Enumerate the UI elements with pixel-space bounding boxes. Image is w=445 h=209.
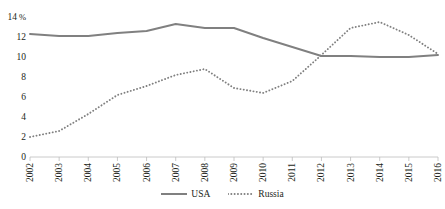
x-axis-tick-label: 2013 <box>346 163 356 182</box>
legend-item-usa[interactable]: USA <box>161 189 210 199</box>
axis-group <box>30 157 438 161</box>
y-axis-unit-label: % <box>19 12 26 22</box>
legend-item-russia[interactable]: Russia <box>228 189 283 199</box>
y-axis-tick-label: 2 <box>0 132 26 142</box>
y-axis-tick-label: 14% <box>0 12 26 22</box>
x-axis-tick-label: 2014 <box>375 163 385 182</box>
legend-label: Russia <box>258 189 283 199</box>
legend-swatch-usa-icon <box>161 190 187 198</box>
series-line-russia <box>30 22 438 137</box>
x-axis-ticks <box>30 157 438 161</box>
legend-label: USA <box>191 189 210 199</box>
x-axis-tick-label: 2005 <box>112 163 122 182</box>
series-group <box>30 22 438 137</box>
legend-swatch-russia-icon <box>228 190 254 198</box>
y-axis-tick-label: 12 <box>0 32 26 42</box>
y-axis-tick-label: 6 <box>0 92 26 102</box>
x-axis-tick-label: 2007 <box>171 163 181 182</box>
series-line-usa <box>30 24 438 57</box>
x-axis-tick-label: 2011 <box>287 163 297 182</box>
x-axis-tick-label: 2008 <box>200 163 210 182</box>
x-axis-tick-label: 2009 <box>229 163 239 182</box>
x-axis-tick-label: 2004 <box>83 163 93 182</box>
y-axis-tick-label: 8 <box>0 72 26 82</box>
line-chart: 02468101214% 200220032004200520062007200… <box>0 0 445 209</box>
x-axis-tick-label: 2015 <box>404 163 414 182</box>
x-axis-tick-label: 2016 <box>433 163 443 182</box>
y-axis-tick-label: 0 <box>0 152 26 162</box>
chart-legend: USARussia <box>0 189 445 199</box>
y-axis-tick-label: 4 <box>0 112 26 122</box>
y-axis-tick-label: 10 <box>0 52 26 62</box>
x-axis-tick-label: 2010 <box>258 163 268 182</box>
x-axis-tick-label: 2012 <box>316 163 326 182</box>
x-axis-tick-label: 2003 <box>54 163 64 182</box>
x-axis-tick-label: 2006 <box>142 163 152 182</box>
x-axis-tick-label: 2002 <box>25 163 35 182</box>
